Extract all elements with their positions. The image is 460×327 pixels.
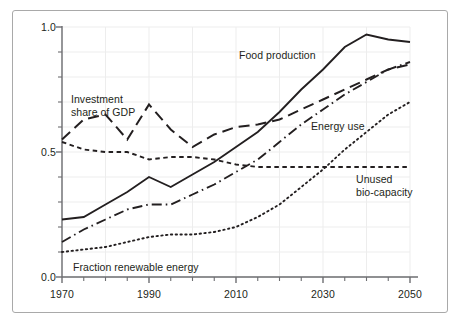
gridlines-group: [62, 27, 410, 277]
series-label-food-production: Food production: [239, 49, 316, 62]
x-tick-label-1970: 1970: [41, 288, 83, 300]
series-label-investment-share-of-gdp: Investment share of GDP: [71, 93, 135, 118]
y-tick-label-0.0: 0.0: [30, 271, 56, 283]
axes-group: [56, 26, 418, 283]
series-label-energy-use: Energy use: [311, 120, 365, 133]
x-tick-label-2010: 2010: [215, 288, 257, 300]
unused-label-line-2: bio-capacity: [356, 186, 413, 198]
investment-label-line-1: Investment: [71, 93, 123, 105]
x-tick-label-2050: 2050: [389, 288, 431, 300]
y-tick-label-1.0: 1.0: [30, 21, 56, 33]
series-label-unused-bio-capacity: Unused bio-capacity: [356, 173, 413, 198]
unused-label-line-1: Unused: [356, 173, 393, 185]
y-tick-label-0.5: 0.5: [30, 146, 56, 158]
x-tick-label-1990: 1990: [128, 288, 170, 300]
series-label-fraction-renewable-energy: Fraction renewable energy: [73, 261, 199, 274]
investment-label-line-2: share of GDP: [71, 106, 135, 118]
chart-plot-area: [0, 0, 460, 327]
x-tick-label-2030: 2030: [302, 288, 344, 300]
chart-figure: 1.0 0.5 0.0 1970 1990 2010 2030 2050 Foo…: [0, 0, 460, 327]
